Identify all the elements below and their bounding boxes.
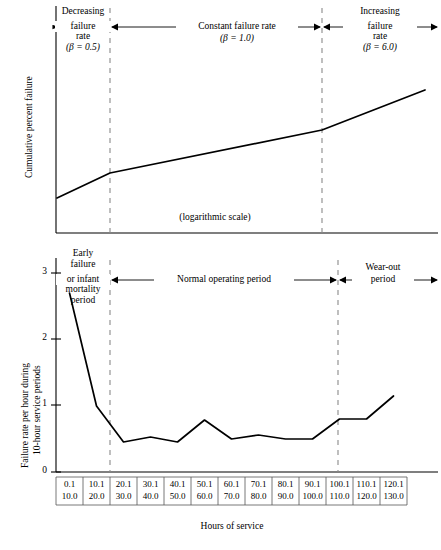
bottom-region-wearout-line2: period <box>352 274 414 285</box>
x-cell-8-top: 80.1 <box>272 479 299 490</box>
top-region-decreasing-line1: Decreasing <box>62 6 105 16</box>
top-region-decreasing-line3: rate <box>76 31 90 41</box>
x-cell-9-bot: 100.0 <box>299 491 326 502</box>
x-cell-2-top: 20.1 <box>110 479 137 490</box>
top-region-decreasing-beta: (β = 0.5) <box>66 42 100 52</box>
bottom-region-early-line1: Early <box>73 248 94 258</box>
x-cell-4-bot: 50.0 <box>164 491 191 502</box>
x-cell-5-top: 50.1 <box>191 479 218 490</box>
bottom-chart-ylabel-line2: 10-hour service periods <box>32 365 43 455</box>
top-region-label-constant: Constant failure rate <box>177 21 297 32</box>
x-cell-12-bot: 130.0 <box>380 491 407 502</box>
x-cell-10-bot: 110.0 <box>326 491 353 502</box>
x-cell-0-bot: 10.0 <box>56 491 83 502</box>
x-cell-0-top: 0.1 <box>56 479 83 490</box>
bottom-region-early-line2: failure <box>71 259 96 269</box>
top-region-increasing-line1: Increasing <box>360 6 400 16</box>
x-cell-1-bot: 20.0 <box>83 491 110 502</box>
bottom-region-label-normal: Normal operating period <box>155 274 293 285</box>
top-chart-ylabel: Cumulative percent failure <box>24 76 34 178</box>
top-region-increasing-line2: failure <box>345 21 415 32</box>
bottom-region-early-line5: period <box>71 295 95 305</box>
logarithmic-scale-note: (logarithmic scale) <box>135 212 295 223</box>
top-region-increasing-beta: (β = 6.0) <box>363 42 397 52</box>
bottom-ytick-0: 0 <box>33 465 47 475</box>
x-cell-2-bot: 30.0 <box>110 491 137 502</box>
bottom-ytick-1: 1 <box>33 398 47 408</box>
x-cell-10-top: 100.1 <box>326 479 353 490</box>
x-cell-3-top: 30.1 <box>137 479 164 490</box>
cumulative-failure-curve <box>57 90 425 198</box>
x-cell-9-top: 90.1 <box>299 479 326 490</box>
x-cell-7-bot: 80.0 <box>245 491 272 502</box>
bottom-region-early-line3: or infant <box>56 274 110 285</box>
x-cell-11-bot: 120.0 <box>353 491 380 502</box>
top-region-increasing-line3: rate <box>373 31 387 41</box>
x-cell-12-top: 120.1 <box>380 479 407 490</box>
bottom-ytick-3: 3 <box>33 266 47 276</box>
x-cell-11-top: 110.1 <box>353 479 380 490</box>
bottom-ytick-2: 2 <box>33 332 47 342</box>
x-cell-8-bot: 90.0 <box>272 491 299 502</box>
x-cell-7-top: 70.1 <box>245 479 272 490</box>
bottom-chart-xlabel: Hours of service <box>152 521 312 532</box>
x-cell-5-bot: 60.0 <box>191 491 218 502</box>
x-cell-4-top: 40.1 <box>164 479 191 490</box>
top-region-decreasing-line2: failure <box>55 21 111 32</box>
x-cell-6-bot: 70.0 <box>218 491 245 502</box>
bottom-region-early-line4: mortality <box>66 284 101 294</box>
x-cell-6-top: 60.1 <box>218 479 245 490</box>
figure-bathtub-curve: Cumulative percent failure Decreasing ra… <box>0 0 441 550</box>
x-cell-1-top: 10.1 <box>83 479 110 490</box>
top-region-constant-beta: (β = 1.0) <box>177 33 297 44</box>
bottom-region-wearout-line1: Wear-out <box>352 262 414 273</box>
failure-rate-curve <box>70 293 394 442</box>
bottom-chart-ylabel-line1: Failure rate per hour during <box>20 363 31 468</box>
x-cell-3-bot: 40.0 <box>137 491 164 502</box>
